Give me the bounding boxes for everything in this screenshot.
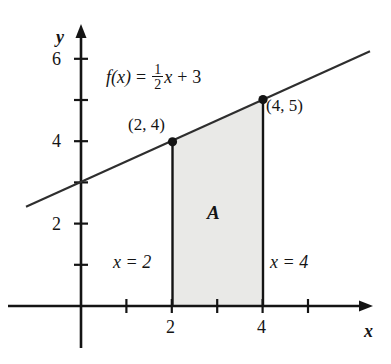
region-label-A: A	[207, 203, 220, 222]
function-constant: 3	[192, 67, 201, 87]
function-variable: x	[164, 67, 172, 87]
x-axis-label: x	[364, 322, 373, 340]
boundary-label-x4: x = 4	[270, 253, 308, 271]
y-axis-arrowhead	[76, 24, 87, 38]
y-tick-label-2: 2	[52, 215, 61, 233]
fraction-denominator: 2	[152, 76, 163, 91]
y-tick-label-6: 6	[52, 50, 61, 68]
equals-sign: =	[136, 67, 146, 87]
y-tick-label-4: 4	[52, 132, 61, 150]
point-label-2-4: (2, 4)	[128, 116, 165, 133]
x-tick-label-2: 2	[166, 318, 175, 336]
y-axis-label: y	[56, 28, 64, 46]
function-equation-label: f(x)=12x+3	[106, 62, 201, 92]
point-marker-2-4	[168, 137, 177, 146]
fraction-numerator: 1	[152, 62, 163, 76]
boundary-label-x2: x = 2	[113, 253, 151, 271]
x-tick-label-4: 4	[257, 318, 266, 336]
plus-sign: +	[177, 67, 187, 87]
point-label-4-5: (4, 5)	[266, 97, 303, 114]
fraction-one-half: 12	[152, 62, 163, 92]
function-name: f(x)	[106, 67, 131, 87]
x-axis-arrowhead	[359, 301, 373, 312]
